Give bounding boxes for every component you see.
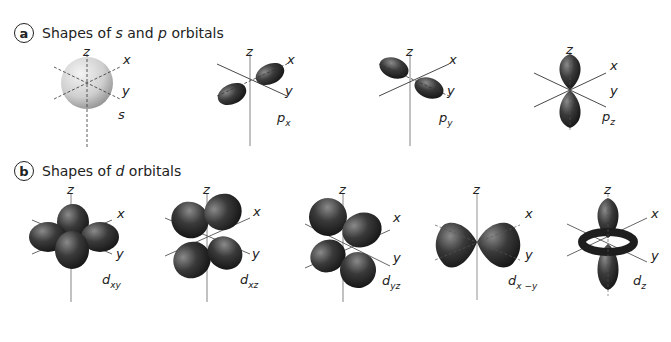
x-axis-label: x bbox=[253, 204, 261, 219]
dxz-orbital-diagram bbox=[160, 190, 285, 305]
y-axis-label: y bbox=[651, 248, 659, 263]
x-axis-label: x bbox=[610, 58, 618, 73]
z-axis-label: z bbox=[473, 182, 480, 197]
orbital-label-s: s bbox=[118, 107, 125, 122]
orbital-px: z x y px bbox=[215, 50, 335, 150]
orbital-label-pz: pz bbox=[602, 109, 615, 127]
orbital-dz2: z x y dz bbox=[565, 190, 671, 305]
y-axis-label: y bbox=[252, 246, 260, 261]
section-b-heading: b Shapes of d orbitals bbox=[14, 161, 181, 181]
section-b-badge: b bbox=[14, 161, 34, 181]
orbital-dx2-y2: z x y dx −y bbox=[430, 190, 555, 305]
dyz-orbital-diagram bbox=[300, 190, 425, 305]
y-axis-label: y bbox=[116, 246, 124, 261]
s-orbital-diagram bbox=[50, 50, 180, 150]
y-axis-label: y bbox=[122, 83, 130, 98]
z-axis-label: z bbox=[67, 182, 74, 197]
x-axis-label: x bbox=[525, 206, 533, 221]
y-axis-label: y bbox=[525, 247, 533, 262]
z-axis-label: z bbox=[203, 182, 210, 197]
orbital-dyz: z x y dyz bbox=[300, 190, 425, 305]
z-axis-label: z bbox=[566, 42, 573, 57]
orbital-dxy: z x y dxy bbox=[20, 190, 145, 305]
z-axis-label: z bbox=[604, 182, 611, 197]
orbital-py: z x y py bbox=[377, 50, 497, 150]
x-axis-label: x bbox=[651, 206, 659, 221]
z-axis-label: z bbox=[83, 44, 90, 59]
orbital-label-dxz: dxz bbox=[240, 272, 258, 290]
x-axis-label: x bbox=[449, 52, 457, 67]
z-axis-label: z bbox=[246, 44, 253, 59]
py-orbital-diagram bbox=[377, 50, 497, 150]
px-orbital-diagram bbox=[215, 50, 335, 150]
orbital-label-dyz: dyz bbox=[382, 273, 400, 291]
orbital-pz: z x y pz bbox=[530, 50, 660, 160]
section-a-title: Shapes of s and p orbitals bbox=[42, 25, 224, 41]
section-a-badge: a bbox=[14, 23, 34, 43]
x-axis-label: x bbox=[393, 210, 401, 225]
x-axis-label: x bbox=[287, 52, 295, 67]
x-axis-label: x bbox=[117, 206, 125, 221]
y-axis-label: y bbox=[447, 83, 455, 98]
x-axis-label: x bbox=[123, 52, 131, 67]
dxy-orbital-diagram bbox=[20, 190, 145, 305]
orbital-label-py: py bbox=[439, 110, 453, 128]
z-axis-label: z bbox=[339, 182, 346, 197]
y-axis-label: y bbox=[393, 250, 401, 265]
pz-orbital-diagram bbox=[530, 50, 660, 160]
section-b-title: Shapes of d orbitals bbox=[42, 163, 181, 179]
orbital-label-dx2-y2: dx −y bbox=[508, 273, 537, 291]
section-a-heading: a Shapes of s and p orbitals bbox=[14, 23, 224, 43]
orbital-s: z x y s bbox=[50, 50, 180, 150]
y-axis-label: y bbox=[610, 83, 618, 98]
z-axis-label: z bbox=[406, 44, 413, 59]
orbital-label-px: px bbox=[277, 110, 291, 128]
orbital-label-dxy: dxy bbox=[102, 272, 121, 290]
y-axis-label: y bbox=[285, 83, 293, 98]
orbital-label-dz2: dz bbox=[633, 273, 646, 291]
orbital-dxz: z x y dxz bbox=[160, 190, 285, 305]
